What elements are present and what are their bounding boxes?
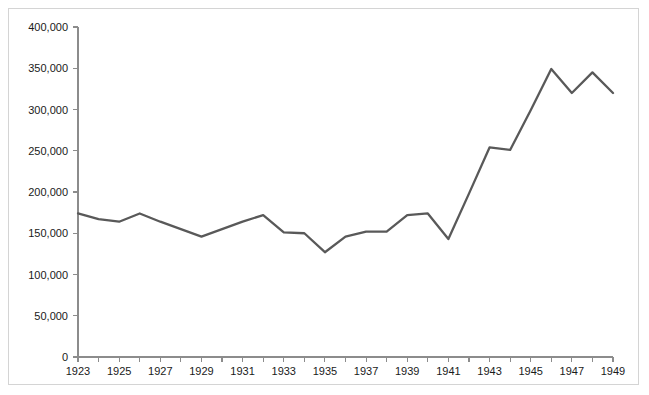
y-tick-label: 100,000 <box>28 269 68 281</box>
y-tick-label: 200,000 <box>28 186 68 198</box>
x-tick-label: 1935 <box>313 365 337 377</box>
x-tick-label: 1949 <box>601 365 625 377</box>
y-axis-group: 050,000100,000150,000200,000250,000300,0… <box>28 21 78 363</box>
x-tick-label: 1929 <box>189 365 213 377</box>
x-axis-ticks <box>78 357 613 362</box>
x-tick-label: 1945 <box>518 365 542 377</box>
y-tick-label: 50,000 <box>34 310 68 322</box>
y-tick-label: 0 <box>62 351 68 363</box>
y-tick-label: 150,000 <box>28 227 68 239</box>
y-tick-label: 400,000 <box>28 21 68 33</box>
x-tick-label: 1947 <box>560 365 584 377</box>
x-tick-label: 1939 <box>395 365 419 377</box>
x-tick-label: 1937 <box>354 365 378 377</box>
y-tick-label: 300,000 <box>28 104 68 116</box>
x-tick-label: 1927 <box>148 365 172 377</box>
x-tick-label: 1933 <box>272 365 296 377</box>
x-tick-label: 1931 <box>230 365 254 377</box>
series-group <box>78 69 613 252</box>
x-axis-tick-labels: 1923192519271929193119331935193719391941… <box>66 365 625 377</box>
x-tick-label: 1923 <box>66 365 90 377</box>
data-series-line <box>78 69 613 252</box>
x-tick-label: 1941 <box>436 365 460 377</box>
x-tick-label: 1943 <box>477 365 501 377</box>
y-axis-tick-labels: 050,000100,000150,000200,000250,000300,0… <box>28 21 68 363</box>
y-axis-ticks <box>73 27 78 357</box>
y-tick-label: 250,000 <box>28 145 68 157</box>
x-axis-group: 1923192519271929193119331935193719391941… <box>66 357 625 377</box>
y-tick-label: 350,000 <box>28 62 68 74</box>
x-tick-label: 1925 <box>107 365 131 377</box>
line-chart: 050,000100,000150,000200,000250,000300,0… <box>0 0 649 395</box>
chart-svg: 050,000100,000150,000200,000250,000300,0… <box>0 0 649 395</box>
